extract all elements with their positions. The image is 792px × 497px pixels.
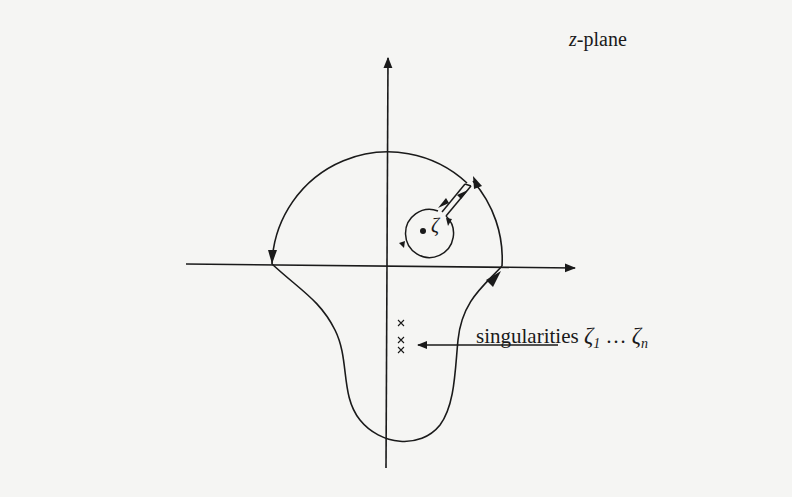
small-circle-contour [399,209,454,257]
zeta-symbol-first: ζ [584,323,593,348]
ellipsis: … [605,324,626,348]
arrow-up-arc-icon [473,176,482,189]
arrow-down-left-icon [268,250,277,264]
real-axis [186,264,575,268]
subscript-first: 1 [593,336,600,351]
zeta-label: ζ [431,214,439,237]
plane-label: z-plane [569,28,627,51]
imaginary-axis [386,58,388,468]
plane-variable: z [569,28,577,50]
circle-arrow-icon [399,241,405,248]
subscript-last: n [641,336,648,351]
singularities-label: singularities ζ1 … ζn [476,323,648,352]
contour-diagram [0,0,792,497]
plane-suffix: -plane [577,28,627,50]
singularities-text: singularities [476,324,579,348]
arrow-up-right-icon [486,271,501,287]
keyhole-cut [438,184,471,216]
zeta-symbol-last: ζ [632,323,641,348]
point-zeta [420,228,426,234]
singularity-markers [398,320,404,353]
